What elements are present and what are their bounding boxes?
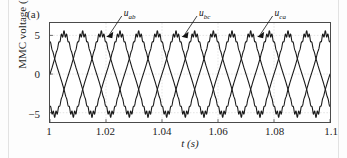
x-tick-label: 1.1	[324, 125, 338, 137]
y-tick-label: −5	[0, 109, 40, 119]
x-tick-label: 1.02	[96, 125, 115, 137]
x-tick-label: 1.04	[152, 125, 171, 137]
x-axis-label-symbol: t (s)	[181, 137, 198, 149]
series-layer	[50, 23, 330, 122]
series-annotation-u-bc: ubc	[199, 8, 210, 21]
figure-panel-a: (a) MMC voltage (kV) 5 0 −5 1 1.02 1.04 …	[0, 0, 347, 158]
x-axis-label: t (s)	[49, 137, 331, 149]
y-tick-label: 0	[0, 69, 40, 79]
page-rule-right	[338, 0, 339, 158]
x-tick-label: 1	[46, 125, 52, 137]
plot-area	[49, 22, 331, 123]
annotation-subscript: bc	[204, 13, 211, 21]
series-annotation-u-ca: uca	[275, 8, 286, 21]
series-annotation-u-ab: uab	[124, 8, 136, 21]
annotation-subscript: ab	[128, 13, 135, 21]
x-tick-label: 1.06	[209, 125, 228, 137]
x-tick-label: 1.08	[265, 125, 284, 137]
panel-label: (a)	[27, 8, 40, 20]
y-tick-label: 5	[0, 30, 40, 40]
annotation-subscript: ca	[279, 13, 286, 21]
